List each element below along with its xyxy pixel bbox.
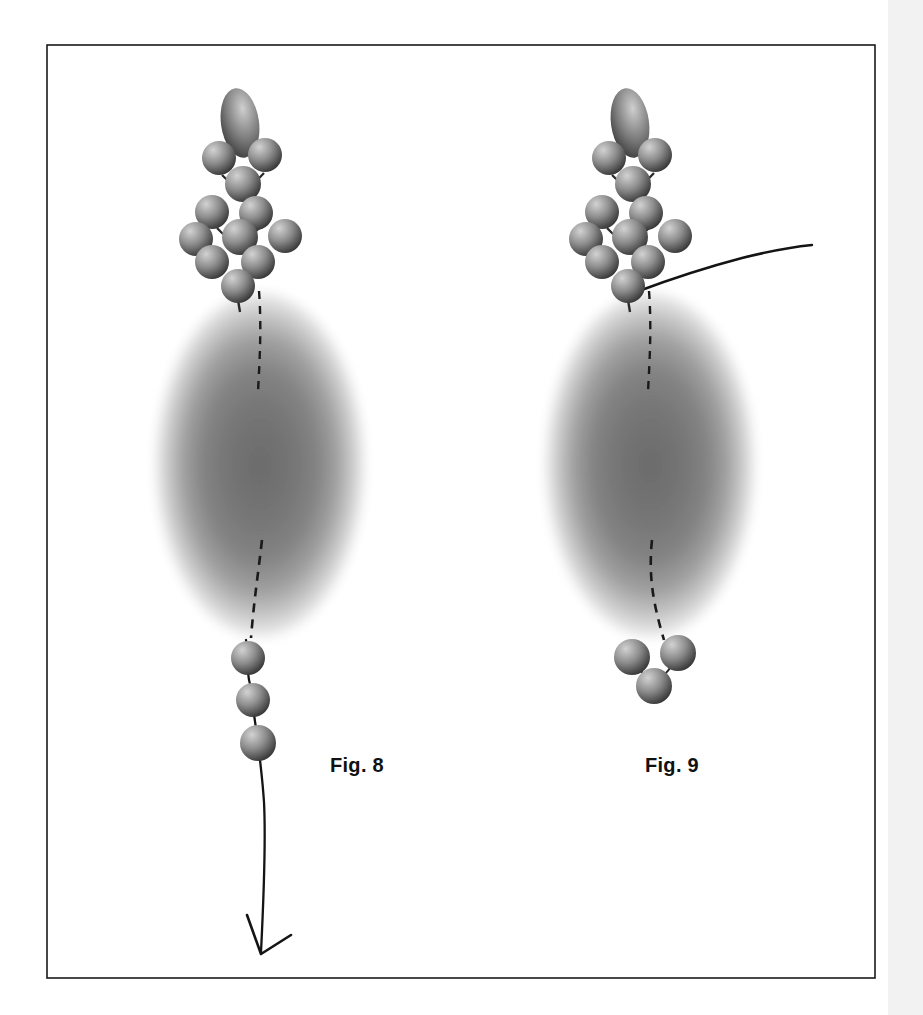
arrow-head-icon-fig8 <box>247 915 291 954</box>
tail-sphere-cluster-fig9 <box>614 635 696 704</box>
figure-canvas: Fig. 8 <box>0 0 923 1015</box>
head-sphere-cluster-fig8 <box>179 138 302 303</box>
patent-drawing-sheet: Fig. 8 <box>0 0 923 1015</box>
figure-fig8: Fig. 8 <box>155 86 384 954</box>
caption-fig8: Fig. 8 <box>330 754 384 776</box>
page-edge-strip <box>888 0 923 1015</box>
caption-fig9: Fig. 9 <box>645 754 699 776</box>
tail-sphere-chain-fig8 <box>231 641 276 761</box>
figure-fig9: Fig. 9 <box>545 86 812 776</box>
